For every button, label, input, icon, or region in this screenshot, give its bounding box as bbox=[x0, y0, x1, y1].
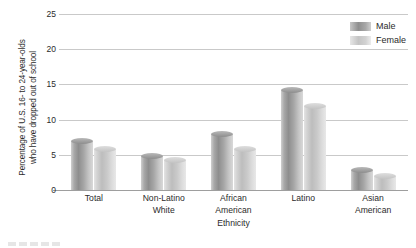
bar-body bbox=[234, 149, 256, 190]
bar-male bbox=[281, 90, 303, 190]
bar-body bbox=[71, 141, 93, 190]
legend-swatch-male-icon bbox=[350, 22, 371, 31]
y-tick-label-0: 0 bbox=[26, 185, 56, 195]
bar-body bbox=[304, 106, 326, 190]
bar-top-ellipse bbox=[304, 103, 326, 109]
bar-body bbox=[281, 90, 303, 190]
bar-top-ellipse bbox=[141, 153, 163, 159]
scan-artifact bbox=[8, 242, 60, 246]
bar-group bbox=[141, 14, 186, 190]
x-axis-baseline bbox=[53, 190, 408, 191]
legend-label-female: Female bbox=[376, 35, 406, 45]
bar-top-ellipse bbox=[71, 138, 93, 144]
y-axis-title-line2: who have dropped out of school bbox=[28, 51, 37, 164]
bar-male bbox=[211, 134, 233, 190]
bar-female bbox=[234, 149, 256, 190]
y-tick-label-25: 25 bbox=[26, 9, 56, 19]
legend: Male Female bbox=[346, 18, 410, 52]
y-tick-label-5: 5 bbox=[26, 150, 56, 160]
bar-top-ellipse bbox=[374, 173, 396, 179]
bar-male bbox=[71, 141, 93, 190]
bar-female bbox=[374, 176, 396, 190]
bar-group bbox=[211, 14, 256, 190]
legend-swatch-female-icon bbox=[350, 36, 371, 45]
bar-female bbox=[164, 160, 186, 190]
bar-group bbox=[281, 14, 326, 190]
bar-female bbox=[94, 149, 116, 190]
bar-body bbox=[211, 134, 233, 190]
legend-label-male: Male bbox=[376, 21, 396, 31]
bar-female bbox=[304, 106, 326, 190]
legend-item-male[interactable]: Male bbox=[350, 21, 406, 31]
bar-top-ellipse bbox=[281, 87, 303, 93]
y-tick-label-10: 10 bbox=[26, 115, 56, 125]
x-axis-title: Ethnicity bbox=[59, 218, 408, 228]
bar-group bbox=[71, 14, 116, 190]
bar-body bbox=[164, 160, 186, 190]
y-tick-label-15: 15 bbox=[26, 79, 56, 89]
bar-chart-figure: Percentage of U.S. 16- to 24-year-olds w… bbox=[0, 0, 416, 248]
legend-item-female[interactable]: Female bbox=[350, 35, 406, 45]
bar-body bbox=[351, 170, 373, 190]
y-tick-label-20: 20 bbox=[26, 44, 56, 54]
bar-male bbox=[141, 156, 163, 190]
bar-body bbox=[94, 149, 116, 190]
bar-male bbox=[351, 170, 373, 190]
bar-body bbox=[141, 156, 163, 190]
